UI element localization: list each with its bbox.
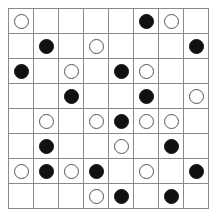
board-cell-r5-c4[interactable] [109,134,134,159]
black-stone-icon [114,189,129,204]
board-cell-r5-c5[interactable] [134,134,159,159]
board-cell-r0-c4[interactable] [109,9,134,34]
board-cell-r4-c6[interactable] [159,109,184,134]
board-cell-r0-c1[interactable] [34,9,59,34]
board-cell-r7-c4[interactable] [109,184,134,209]
board-cell-r2-c2[interactable] [59,59,84,84]
white-stone-icon [64,64,79,79]
board-cell-r1-c2[interactable] [59,34,84,59]
black-stone-icon [189,164,204,179]
board-cell-r1-c0[interactable] [9,34,34,59]
white-stone-icon [189,89,204,104]
board-cell-r5-c7[interactable] [184,134,209,159]
white-stone-icon [89,189,104,204]
board-cell-r5-c1[interactable] [34,134,59,159]
white-stone-icon [39,114,54,129]
board-cell-r7-c6[interactable] [159,184,184,209]
board-cell-r5-c3[interactable] [84,134,109,159]
board-cell-r5-c0[interactable] [9,134,34,159]
board-cell-r0-c3[interactable] [84,9,109,34]
board-cell-r6-c5[interactable] [134,159,159,184]
board-cell-r3-c6[interactable] [159,84,184,109]
board-cell-r0-c7[interactable] [184,9,209,34]
board-cell-r3-c2[interactable] [59,84,84,109]
white-stone-icon [89,114,104,129]
white-stone-icon [89,39,104,54]
black-stone-icon [64,89,79,104]
black-stone-icon [39,39,54,54]
white-stone-icon [139,164,154,179]
white-stone-icon [114,139,129,154]
board-cell-r5-c2[interactable] [59,134,84,159]
board-cell-r1-c5[interactable] [134,34,159,59]
board-cell-r6-c4[interactable] [109,159,134,184]
black-stone-icon [139,14,154,29]
board-cell-r7-c1[interactable] [34,184,59,209]
black-stone-icon [139,89,154,104]
black-stone-icon [164,189,179,204]
board-cell-r1-c3[interactable] [84,34,109,59]
board-cell-r2-c1[interactable] [34,59,59,84]
black-stone-icon [89,164,104,179]
board-cell-r6-c6[interactable] [159,159,184,184]
board-cell-r7-c3[interactable] [84,184,109,209]
black-stone-icon [189,39,204,54]
board-cell-r3-c1[interactable] [34,84,59,109]
board-cell-r4-c4[interactable] [109,109,134,134]
board-cell-r6-c0[interactable] [9,159,34,184]
board-cell-r3-c3[interactable] [84,84,109,109]
black-stone-icon [39,139,54,154]
board-cell-r1-c1[interactable] [34,34,59,59]
game-board [8,8,209,209]
board-cell-r7-c7[interactable] [184,184,209,209]
board-cell-r7-c0[interactable] [9,184,34,209]
board-cell-r0-c6[interactable] [159,9,184,34]
board-cell-r2-c7[interactable] [184,59,209,84]
board-cell-r0-c5[interactable] [134,9,159,34]
black-stone-icon [14,64,29,79]
board-cell-r6-c3[interactable] [84,159,109,184]
white-stone-icon [14,164,29,179]
board-cell-r2-c3[interactable] [84,59,109,84]
board-cell-r4-c1[interactable] [34,109,59,134]
board-cell-r4-c2[interactable] [59,109,84,134]
board-cell-r1-c7[interactable] [184,34,209,59]
black-stone-icon [164,139,179,154]
board-cell-r2-c6[interactable] [159,59,184,84]
board-cell-r4-c3[interactable] [84,109,109,134]
board-cell-r5-c6[interactable] [159,134,184,159]
board-cell-r4-c0[interactable] [9,109,34,134]
white-stone-icon [164,14,179,29]
board-cell-r6-c7[interactable] [184,159,209,184]
white-stone-icon [64,164,79,179]
white-stone-icon [139,64,154,79]
board-cell-r0-c0[interactable] [9,9,34,34]
black-stone-icon [114,114,129,129]
board-cell-r3-c4[interactable] [109,84,134,109]
black-stone-icon [114,64,129,79]
white-stone-icon [164,114,179,129]
board-cell-r2-c0[interactable] [9,59,34,84]
board-cell-r3-c5[interactable] [134,84,159,109]
black-stone-icon [39,164,54,179]
board-cell-r7-c2[interactable] [59,184,84,209]
board-cell-r4-c7[interactable] [184,109,209,134]
board-cell-r3-c7[interactable] [184,84,209,109]
board-cell-r2-c5[interactable] [134,59,159,84]
board-cell-r6-c2[interactable] [59,159,84,184]
board-cell-r1-c4[interactable] [109,34,134,59]
board-cell-r7-c5[interactable] [134,184,159,209]
board-cell-r0-c2[interactable] [59,9,84,34]
white-stone-icon [14,14,29,29]
board-cell-r4-c5[interactable] [134,109,159,134]
board-cell-r3-c0[interactable] [9,84,34,109]
board-cell-r2-c4[interactable] [109,59,134,84]
white-stone-icon [139,114,154,129]
board-cell-r6-c1[interactable] [34,159,59,184]
board-cell-r1-c6[interactable] [159,34,184,59]
